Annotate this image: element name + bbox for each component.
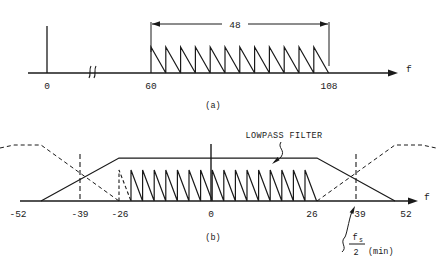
panel-b-tick-minus-26: -26 xyxy=(111,209,128,220)
panel-a: 48 f 0 60 108 (a) xyxy=(28,20,412,112)
panel-a-tick-108: 108 xyxy=(320,81,337,92)
fs-suffix: (min) xyxy=(368,247,394,257)
panel-b-tick-minus-52: -52 xyxy=(9,209,26,220)
alias-spectrum-left xyxy=(0,145,119,201)
panel-b-sawtooth-train xyxy=(131,170,317,201)
fs-over-2-annotation: f s 2 (min) xyxy=(342,206,394,258)
panel-a-axis-label: f xyxy=(406,64,412,75)
fs-leader-line xyxy=(342,210,353,252)
panel-b-tick-26: 26 xyxy=(306,209,318,220)
panel-b-tick-0: 0 xyxy=(208,209,214,220)
lowpass-filter-label: LOWPASS FILTER xyxy=(245,131,322,141)
panel-a-caption: (a) xyxy=(205,101,220,111)
axis-break-icon xyxy=(89,66,96,78)
panel-b-axis-label: f xyxy=(424,192,430,203)
panel-b-tick-52: 52 xyxy=(400,209,412,220)
arrowhead-left-icon xyxy=(152,21,160,27)
panel-a-tick-60: 60 xyxy=(145,81,157,92)
panel-a-axis-arrow-icon xyxy=(388,70,398,77)
panel-b-tick-minus-39: -39 xyxy=(71,209,88,220)
fs-denominator: 2 xyxy=(353,248,358,258)
alias-spectrum-right xyxy=(317,145,436,201)
panel-b-caption: (b) xyxy=(205,233,220,243)
panel-b-sawtooth-partial-dashed xyxy=(119,170,131,201)
fs-subscript: s xyxy=(359,237,363,244)
fs-numerator: f xyxy=(352,233,357,243)
spectrum-diagram: 48 f 0 60 108 (a) xyxy=(0,0,436,258)
panel-a-tick-0: 0 xyxy=(44,81,50,92)
panel-a-sawtooth-train xyxy=(151,47,329,73)
panel-b: LOWPASS FILTER f xyxy=(0,131,436,258)
arrowhead-right-icon xyxy=(320,21,328,27)
figure-container: 48 f 0 60 108 (a) xyxy=(0,0,436,258)
dimension-value-48: 48 xyxy=(229,20,241,31)
panel-b-tick-39: 39 xyxy=(354,209,366,220)
panel-b-axis-arrow-icon xyxy=(408,198,418,205)
lowpass-filter-response xyxy=(41,158,395,201)
